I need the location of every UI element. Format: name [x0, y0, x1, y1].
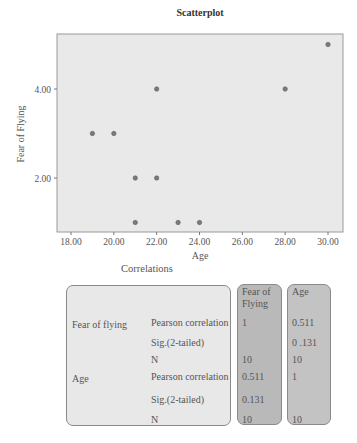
y-axis-ticks: 2.004.00 [34, 85, 57, 184]
data-point [133, 176, 137, 180]
y-axis-label: Fear of Flying [15, 105, 26, 162]
x-axis-label: Age [192, 250, 209, 261]
cell-value: 1 [292, 371, 297, 383]
cell-value: 0 .131 [292, 337, 317, 349]
data-point [326, 42, 330, 46]
row-stat: N [151, 354, 158, 366]
cell-value: 1 [242, 317, 247, 329]
data-point [197, 220, 201, 224]
row-labels-panel [66, 285, 231, 426]
col-header-age: Age [292, 286, 309, 298]
col-header-fear-line1: Fear of [242, 286, 271, 298]
cell-value: 10 [242, 354, 252, 366]
x-axis-ticks: 18.0020.0022.0024.0026.0028.0030.00 [60, 232, 339, 247]
correlations-title: Correlations [121, 263, 173, 274]
cell-value: 0.511 [242, 371, 264, 383]
data-point [112, 131, 116, 135]
row-variable-fear-of-flying: Fear of flying [72, 319, 127, 331]
x-tick-label: 28.00 [274, 237, 296, 247]
cell-value: 0.511 [292, 317, 314, 329]
col-header-fear-line2: Flying [242, 298, 268, 310]
row-stat: Pearson correlation [151, 317, 228, 329]
x-tick-label: 30.00 [317, 237, 339, 247]
row-stat: Pearson correlation [151, 371, 228, 383]
figure-root: Scatterplot 2.004.00 18.0020.0022.0024.0… [0, 0, 357, 443]
plot-area [57, 34, 343, 232]
data-point [133, 220, 137, 224]
data-point [154, 176, 158, 180]
data-point [283, 87, 287, 91]
x-tick-label: 18.00 [60, 237, 82, 247]
x-tick-label: 26.00 [232, 237, 254, 247]
cell-value: 10 [292, 354, 302, 366]
x-tick-label: 24.00 [189, 237, 211, 247]
row-variable-age: Age [72, 373, 89, 385]
data-point [154, 87, 158, 91]
scatterplot: 2.004.00 18.0020.0022.0024.0026.0028.003… [0, 0, 357, 262]
row-stat: N [151, 414, 158, 426]
row-stat: Sig.(2-tailed) [151, 337, 204, 349]
data-point [176, 220, 180, 224]
cell-value: 0.131 [242, 394, 265, 406]
cell-value: 10 [242, 414, 252, 426]
y-tick-label: 2.00 [34, 174, 51, 184]
cell-value: 10 [292, 414, 302, 426]
y-tick-label: 4.00 [34, 85, 51, 95]
x-tick-label: 22.00 [146, 237, 168, 247]
data-point [90, 131, 94, 135]
row-stat: Sig.(2-tailed) [151, 394, 204, 406]
x-tick-label: 20.00 [103, 237, 125, 247]
